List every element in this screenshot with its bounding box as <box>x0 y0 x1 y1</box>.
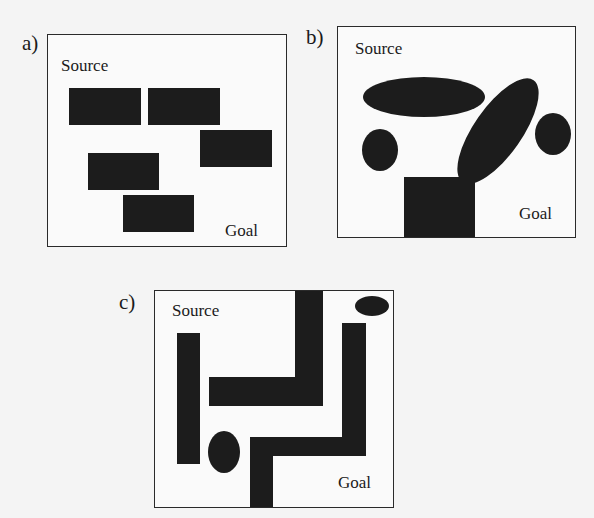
obstacle-rect <box>69 88 141 125</box>
obstacle-wall-upper-horizontal <box>209 377 323 406</box>
obstacle-layer <box>0 0 594 518</box>
obstacle-circle <box>535 113 571 155</box>
obstacle-circle <box>362 129 398 171</box>
obstacle-ellipse <box>208 431 240 473</box>
obstacle-rect <box>200 130 272 167</box>
obstacle-rect <box>88 153 159 190</box>
obstacle-rect <box>123 195 194 232</box>
obstacle-ellipse-small <box>355 296 389 316</box>
obstacle-wall-right <box>342 323 366 455</box>
panel-a-obstacles <box>69 88 272 232</box>
obstacle-square <box>404 177 475 237</box>
panel-c-obstacles <box>177 291 389 507</box>
obstacle-rect <box>148 88 220 125</box>
obstacle-wall-bottom <box>250 437 273 507</box>
obstacle-wall-left <box>177 333 200 464</box>
panel-b-obstacles <box>362 66 571 237</box>
obstacle-ellipse <box>363 77 485 117</box>
